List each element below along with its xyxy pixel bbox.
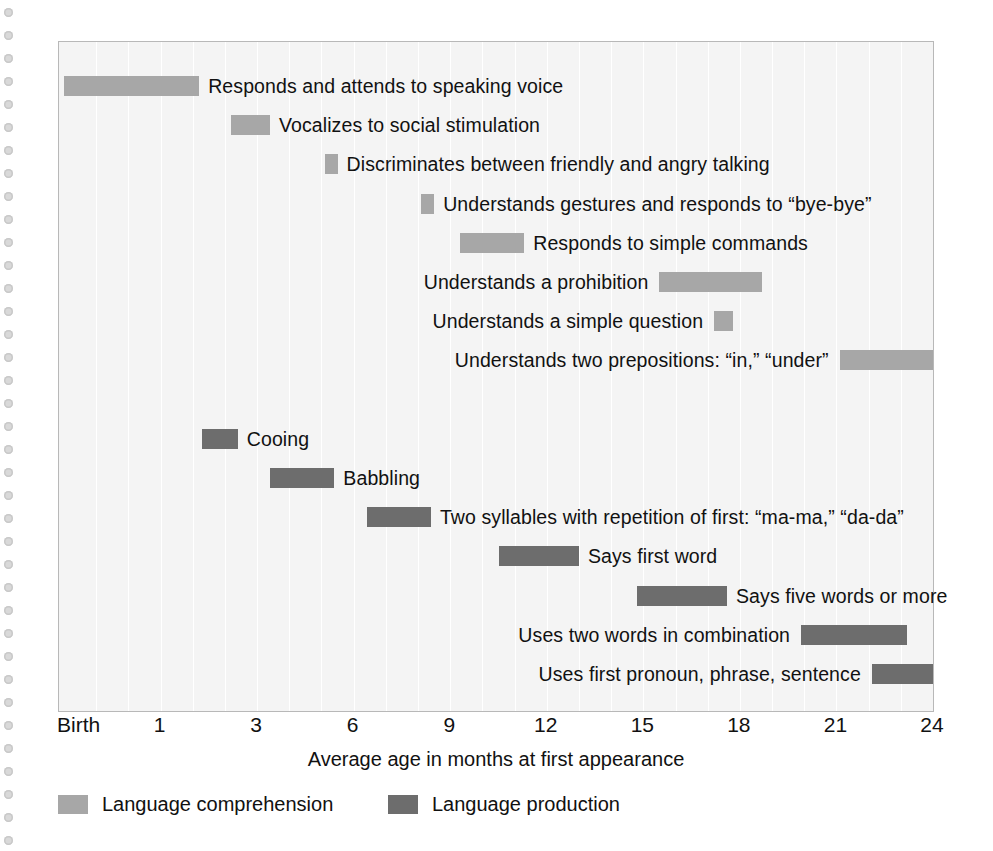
milestone-bar[interactable] bbox=[421, 194, 434, 214]
milestone-bar[interactable] bbox=[714, 311, 733, 331]
milestone-bar[interactable] bbox=[801, 625, 907, 645]
chart-row: Understands a simple question bbox=[59, 305, 933, 337]
milestone-bar[interactable] bbox=[659, 272, 762, 292]
legend-label: Language comprehension bbox=[102, 793, 333, 816]
chart-row: Understands a prohibition bbox=[59, 266, 933, 298]
chart-row: Uses first pronoun, phrase, sentence bbox=[59, 658, 933, 690]
x-tick-label: 9 bbox=[443, 713, 455, 737]
milestone-label: Understands a prohibition bbox=[424, 268, 649, 296]
x-axis-title: Average age in months at first appearanc… bbox=[58, 748, 934, 771]
milestone-label: Says first word bbox=[588, 542, 717, 570]
milestone-bar[interactable] bbox=[460, 233, 524, 253]
x-tick-label: 6 bbox=[347, 713, 359, 737]
milestone-label: Responds to simple commands bbox=[533, 229, 808, 257]
milestone-bar[interactable] bbox=[499, 546, 579, 566]
x-axis-ticks: Birth13691215182124 bbox=[58, 713, 934, 747]
language-milestones-chart: Responds and attends to speaking voiceVo… bbox=[0, 0, 993, 851]
x-tick-label: Birth bbox=[57, 713, 100, 737]
milestone-label: Responds and attends to speaking voice bbox=[208, 72, 563, 100]
chart-row: Responds to simple commands bbox=[59, 227, 933, 259]
chart-row: Responds and attends to speaking voice bbox=[59, 70, 933, 102]
milestone-bar[interactable] bbox=[872, 664, 933, 684]
chart-row: Cooing bbox=[59, 423, 933, 455]
milestone-label: Understands gestures and responds to “by… bbox=[443, 190, 871, 218]
chart-row: Says first word bbox=[59, 540, 933, 572]
chart-row-spacer bbox=[59, 384, 933, 416]
chart-row: Understands gestures and responds to “by… bbox=[59, 188, 933, 220]
legend-swatch bbox=[388, 795, 418, 814]
milestone-label: Uses first pronoun, phrase, sentence bbox=[539, 660, 861, 688]
milestone-bar[interactable] bbox=[325, 154, 338, 174]
chart-row: Vocalizes to social stimulation bbox=[59, 109, 933, 141]
legend-label: Language production bbox=[432, 793, 620, 816]
milestone-label: Uses two words in combination bbox=[518, 621, 790, 649]
chart-row: Discriminates between friendly and angry… bbox=[59, 148, 933, 180]
milestone-bar[interactable] bbox=[231, 115, 270, 135]
legend-item[interactable]: Language production bbox=[388, 790, 620, 818]
milestone-bar[interactable] bbox=[367, 507, 431, 527]
x-tick-label: 15 bbox=[631, 713, 654, 737]
x-tick-label: 18 bbox=[727, 713, 750, 737]
x-tick-label: 3 bbox=[250, 713, 262, 737]
chart-row: Two syllables with repetition of first: … bbox=[59, 501, 933, 533]
milestone-label: Understands two prepositions: “in,” “und… bbox=[455, 346, 829, 374]
milestone-label: Understands a simple question bbox=[433, 307, 704, 335]
milestone-label: Says five words or more bbox=[736, 582, 947, 610]
chart-row: Says five words or more bbox=[59, 580, 933, 612]
x-tick-label: 1 bbox=[154, 713, 166, 737]
x-tick-label: 12 bbox=[534, 713, 557, 737]
milestone-label: Two syllables with repetition of first: … bbox=[440, 503, 904, 531]
milestone-bar[interactable] bbox=[637, 586, 727, 606]
legend-swatch bbox=[58, 795, 88, 814]
milestone-bar[interactable] bbox=[202, 429, 237, 449]
milestone-bar[interactable] bbox=[64, 76, 199, 96]
milestone-bar[interactable] bbox=[840, 350, 933, 370]
chart-rows: Responds and attends to speaking voiceVo… bbox=[59, 42, 933, 711]
x-tick-label: 21 bbox=[824, 713, 847, 737]
milestone-label: Vocalizes to social stimulation bbox=[279, 111, 540, 139]
milestone-bar[interactable] bbox=[270, 468, 334, 488]
milestone-label: Cooing bbox=[247, 425, 309, 453]
chart-row: Babbling bbox=[59, 462, 933, 494]
milestone-label: Babbling bbox=[343, 464, 420, 492]
milestone-label: Discriminates between friendly and angry… bbox=[347, 150, 770, 178]
plot-area: Responds and attends to speaking voiceVo… bbox=[58, 41, 934, 712]
x-tick-label: 24 bbox=[920, 713, 943, 737]
legend-item[interactable]: Language comprehension bbox=[58, 790, 333, 818]
chart-row: Understands two prepositions: “in,” “und… bbox=[59, 344, 933, 376]
chart-row: Uses two words in combination bbox=[59, 619, 933, 651]
chart-legend: Language comprehensionLanguage productio… bbox=[58, 790, 934, 824]
